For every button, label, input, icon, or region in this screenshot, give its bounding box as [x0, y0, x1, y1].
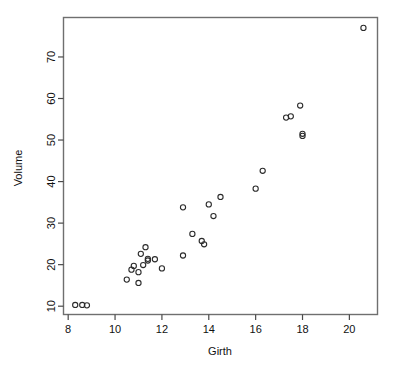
y-tick-label: 20	[45, 259, 57, 271]
chart-canvas: 8101214161820 10203040506070 Girth Volum…	[0, 0, 398, 368]
x-tick-label: 14	[203, 323, 215, 335]
x-tick-label: 12	[156, 323, 168, 335]
x-tick-label: 16	[250, 323, 262, 335]
x-axis-title: Girth	[208, 345, 232, 357]
x-tick-label: 18	[296, 323, 308, 335]
x-tick-label: 8	[65, 323, 71, 335]
y-tick-label: 70	[45, 51, 57, 63]
x-tick-label: 20	[343, 323, 355, 335]
scatter-plot-figure: 8101214161820 10203040506070 Girth Volum…	[0, 0, 398, 368]
y-axis-title: Volume	[12, 150, 24, 187]
y-tick-label: 30	[45, 217, 57, 229]
y-tick-label: 60	[45, 92, 57, 104]
y-tick-label: 10	[45, 300, 57, 312]
y-tick-label: 40	[45, 175, 57, 187]
figure-background	[0, 0, 398, 368]
x-tick-label: 10	[109, 323, 121, 335]
y-tick-label: 50	[45, 134, 57, 146]
